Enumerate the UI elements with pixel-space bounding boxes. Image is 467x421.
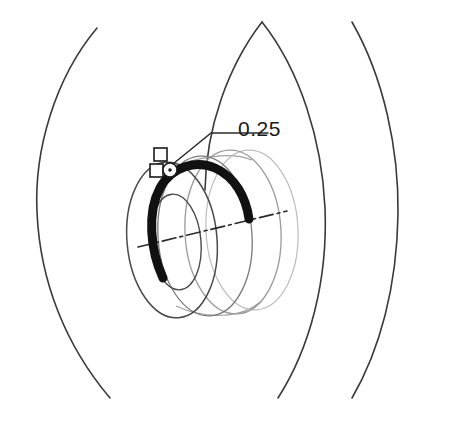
contour-arc-outer-left	[37, 28, 110, 398]
contour-arc-group	[37, 22, 398, 398]
ring-ellipse-outer-back	[181, 148, 285, 317]
ring-ellipse-outer-front	[120, 158, 223, 321]
contour-arc-outer-right	[352, 22, 398, 398]
square-marker-lower	[150, 164, 163, 177]
square-marker-upper	[154, 148, 167, 161]
figure-canvas: 0.25	[0, 0, 467, 421]
circle-marker-center-dot	[168, 168, 172, 172]
callout-label: 0.25	[238, 117, 281, 140]
contour-arc-mid-right	[262, 22, 325, 398]
technical-figure: 0.25	[0, 0, 467, 421]
axis-centerline	[138, 211, 287, 247]
